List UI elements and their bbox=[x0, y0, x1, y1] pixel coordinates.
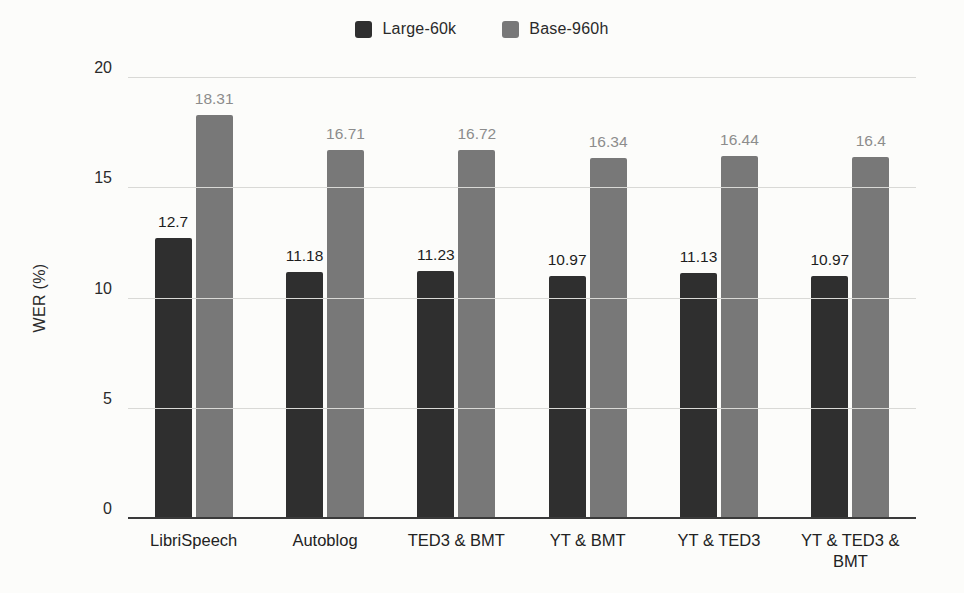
bar-large-60k: 12.7 bbox=[155, 238, 192, 517]
bar-large-60k: 11.18 bbox=[286, 272, 323, 517]
bar-large-60k: 11.13 bbox=[680, 273, 717, 517]
bar-value-label: 10.97 bbox=[548, 251, 587, 269]
bar-value-label: 11.18 bbox=[286, 247, 324, 265]
bar-value-label: 16.34 bbox=[589, 133, 628, 151]
grid-line bbox=[128, 187, 916, 188]
bar-value-label: 16.4 bbox=[856, 132, 886, 150]
bar-large-60k: 11.23 bbox=[417, 271, 454, 517]
bar-large-60k: 10.97 bbox=[811, 276, 848, 517]
bar-value-label: 18.31 bbox=[195, 90, 234, 108]
grid-line bbox=[128, 77, 916, 78]
bar-value-label: 16.71 bbox=[326, 125, 365, 143]
legend-label: Large-60k bbox=[382, 20, 456, 38]
bar-value-label: 12.7 bbox=[158, 213, 188, 231]
x-axis-category-label: LibriSpeech bbox=[128, 530, 259, 571]
legend-item-large-60k: Large-60k bbox=[355, 20, 456, 38]
grid-line bbox=[128, 408, 916, 409]
chart-legend: Large-60kBase-960h bbox=[0, 20, 964, 38]
x-axis-line bbox=[128, 517, 916, 519]
bar-base-960h: 16.44 bbox=[721, 156, 758, 517]
x-axis-category-label: Autoblog bbox=[259, 530, 390, 571]
bar-value-label: 16.72 bbox=[457, 125, 496, 143]
y-tick-label: 20 bbox=[94, 59, 112, 77]
bar-value-label: 11.13 bbox=[680, 248, 718, 266]
y-tick-label: 0 bbox=[103, 500, 112, 518]
bar-base-960h: 16.72 bbox=[458, 150, 495, 517]
y-tick-label: 15 bbox=[94, 169, 112, 187]
plot-area: 12.718.3111.1816.7111.2316.7210.9716.341… bbox=[128, 78, 916, 519]
bar-value-label: 11.23 bbox=[417, 246, 455, 264]
legend-swatch-icon bbox=[355, 21, 372, 38]
wer-bar-chart-figure: Large-60kBase-960h WER (%) 12.718.3111.1… bbox=[0, 0, 964, 593]
bar-base-960h: 18.31 bbox=[196, 115, 233, 517]
x-axis-category-label: YT & TED3 bbox=[653, 530, 784, 571]
x-axis-category-label: YT & TED3 & BMT bbox=[785, 530, 916, 571]
bar-base-960h: 16.4 bbox=[852, 157, 889, 517]
legend-item-base-960h: Base-960h bbox=[502, 20, 608, 38]
y-axis-title: WER (%) bbox=[31, 264, 49, 333]
grid-line bbox=[128, 298, 916, 299]
legend-swatch-icon bbox=[502, 21, 519, 38]
y-tick-label: 10 bbox=[94, 280, 112, 298]
x-axis-category-label: TED3 & BMT bbox=[391, 530, 522, 571]
bar-base-960h: 16.71 bbox=[327, 150, 364, 517]
bar-base-960h: 16.34 bbox=[590, 158, 627, 517]
legend-label: Base-960h bbox=[529, 20, 608, 38]
x-axis-labels: LibriSpeechAutoblogTED3 & BMTYT & BMTYT … bbox=[128, 530, 916, 571]
bar-value-label: 10.97 bbox=[810, 251, 849, 269]
y-tick-label: 5 bbox=[103, 390, 112, 408]
bar-value-label: 16.44 bbox=[720, 131, 759, 149]
x-axis-category-label: YT & BMT bbox=[522, 530, 653, 571]
bar-large-60k: 10.97 bbox=[549, 276, 586, 517]
